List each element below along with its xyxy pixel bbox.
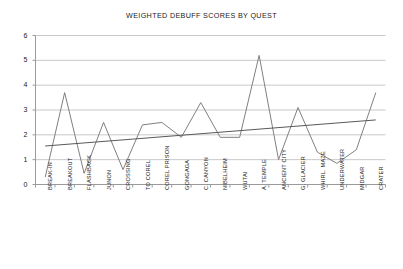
x-tick-label: MIDGAR [359, 166, 365, 190]
x-tick-label: C. CANYON [203, 157, 209, 190]
x-tick-label: G. GLACIER [300, 155, 306, 189]
x-tick-label: BREAK-IN [47, 161, 53, 189]
x-tick-label: UNDERWATER [339, 148, 345, 189]
x-tick-label: BREAKOUT [67, 157, 73, 189]
x-tick-label: JUNON [106, 169, 112, 189]
x-axis-labels: BREAK-INBREAKOUTFLASHBACKJUNONCROSSINGTO… [0, 0, 403, 269]
x-tick-label: COREL PRISON [164, 145, 170, 189]
x-tick-label: FLASHBACK [86, 154, 92, 189]
x-tick-label: CROSSING [125, 158, 131, 189]
x-tick-label: NIBELHEIM [222, 158, 228, 190]
x-tick-label: GONGAGA [184, 159, 190, 189]
x-tick-label: CRATER [378, 166, 384, 190]
x-tick-label: TO COREL [145, 159, 151, 189]
x-tick-label: WHIRL. MAZE [320, 151, 326, 190]
chart-container: WEIGHTED DEBUFF SCORES BY QUEST 0123456 … [0, 0, 403, 269]
x-tick-label: WUTAI [242, 171, 248, 190]
x-tick-label: ANCIENT CITY [281, 148, 287, 189]
x-tick-label: A. TEMPLE [261, 159, 267, 190]
